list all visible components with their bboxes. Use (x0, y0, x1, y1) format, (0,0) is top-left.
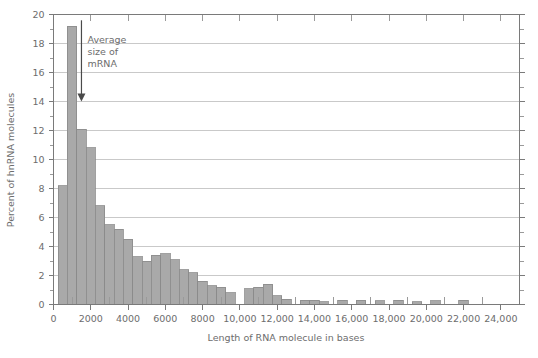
y-tick-label: 12 (32, 125, 44, 136)
histogram-bar (310, 300, 319, 304)
histogram-bar (394, 300, 403, 304)
rna-length-histogram: 024681012141618200200040006000800010,000… (0, 0, 538, 358)
histogram-bar (207, 286, 216, 305)
x-tick-label: 6000 (153, 313, 177, 324)
x-tick-label: 14,000 (298, 313, 331, 324)
histogram-bar (263, 284, 272, 304)
y-tick-label: 16 (32, 67, 44, 78)
histogram-bar (77, 129, 86, 304)
y-tick-label: 8 (38, 183, 44, 194)
histogram-bar (375, 301, 384, 305)
annotation-label-line: mRNA (87, 58, 117, 69)
histogram-bar (170, 260, 179, 305)
y-tick-label: 14 (32, 96, 44, 107)
y-tick-label: 6 (38, 212, 44, 223)
x-tick-label: 2000 (79, 313, 103, 324)
histogram-bar (86, 148, 95, 305)
histogram-bar (431, 301, 440, 305)
y-tick-label: 2 (38, 270, 44, 281)
histogram-bar (226, 293, 235, 305)
y-axis-title: Percent of hnRNA molecules (5, 93, 16, 227)
y-tick-label: 20 (32, 9, 44, 20)
histogram-bar (282, 299, 291, 304)
histogram-bar (105, 225, 114, 305)
y-tick-label: 4 (38, 241, 44, 252)
x-tick-label: 8000 (191, 313, 215, 324)
x-tick-label: 12,000 (261, 313, 294, 324)
histogram-figure: 024681012141618200200040006000800010,000… (0, 0, 538, 358)
x-tick-label: 18,000 (372, 313, 405, 324)
histogram-bar (114, 229, 123, 304)
annotation-label-line: Average (87, 34, 126, 45)
x-tick-label: 22,000 (447, 313, 480, 324)
histogram-bar (189, 273, 198, 305)
histogram-bar (459, 300, 468, 304)
histogram-bar (273, 296, 282, 305)
y-tick-label: 10 (32, 154, 44, 165)
histogram-bar (338, 300, 347, 304)
histogram-bar (123, 239, 132, 304)
histogram-bar (245, 289, 254, 305)
x-tick-label: 4000 (116, 313, 140, 324)
x-tick-label: 20,000 (410, 313, 443, 324)
x-tick-label: 10,000 (223, 313, 256, 324)
histogram-bar (67, 26, 76, 304)
histogram-bar (133, 257, 142, 305)
histogram-bar (95, 206, 104, 305)
y-tick-label: 0 (38, 299, 44, 310)
histogram-bar (161, 254, 170, 305)
x-tick-label: 0 (50, 313, 56, 324)
histogram-bar (300, 300, 309, 304)
histogram-bar (58, 186, 67, 305)
y-tick-label: 18 (32, 38, 44, 49)
histogram-bar (198, 281, 207, 304)
x-axis-title: Length of RNA molecule in bases (208, 332, 365, 343)
histogram-bar (356, 300, 365, 304)
histogram-bar (151, 255, 160, 304)
x-tick-label: 16,000 (335, 313, 368, 324)
x-tick-label: 24,000 (484, 313, 517, 324)
annotation-label-line: size of (87, 46, 118, 57)
